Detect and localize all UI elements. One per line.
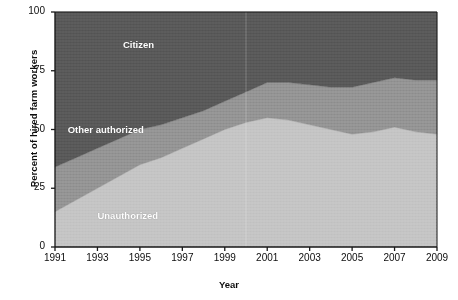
y-tick-label-25: 25 (15, 181, 45, 192)
y-tick-label-75: 75 (15, 64, 45, 75)
x-tick-label-1991: 1991 (35, 252, 75, 263)
y-tick-label-50: 50 (15, 123, 45, 134)
y-tick-label-100: 100 (15, 5, 45, 16)
series-label-citizen: Citizen (123, 39, 154, 50)
x-tick-label-1997: 1997 (162, 252, 202, 263)
x-tick-label-1999: 1999 (205, 252, 245, 263)
y-tick-label-0: 0 (15, 240, 45, 251)
stacked-area-chart: Percent of hired farm workers Year 02550… (0, 0, 458, 300)
x-tick-label-2009: 2009 (417, 252, 457, 263)
x-tick-label-2003: 2003 (290, 252, 330, 263)
series-label-unauthorized: Unauthorized (97, 210, 158, 221)
x-tick-label-2007: 2007 (375, 252, 415, 263)
series-label-other-authorized: Other authorized (68, 124, 144, 135)
x-axis-title: Year (0, 279, 458, 290)
x-tick-label-2001: 2001 (247, 252, 287, 263)
x-tick-label-2005: 2005 (332, 252, 372, 263)
x-tick-label-1993: 1993 (77, 252, 117, 263)
x-tick-label-1995: 1995 (120, 252, 160, 263)
